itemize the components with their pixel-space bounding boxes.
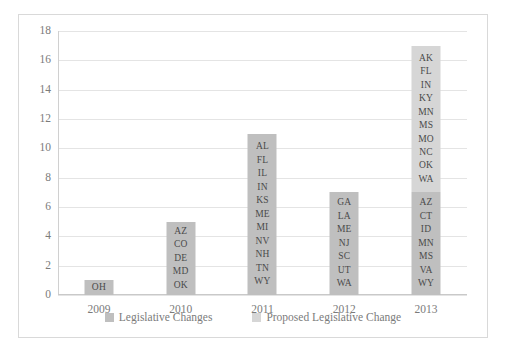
y-axis-tick-label: 18 xyxy=(40,25,52,37)
bar-state-label: NV xyxy=(255,235,269,248)
bar-segment[interactable]: AZCODEMDOK xyxy=(166,222,195,295)
bar-state-label: IL xyxy=(258,167,267,180)
legend-entry[interactable]: Legislative Changes xyxy=(105,312,213,324)
bar-slot: AKFLINKYMNMSMONCOKWAAZCTIDMNMSVAWY2013 xyxy=(385,31,467,295)
bar-state-label: WA xyxy=(418,173,433,186)
bar-state-label: DE xyxy=(174,252,187,265)
bar-segment[interactable]: OH xyxy=(84,280,113,295)
bar-state-label: NJ xyxy=(339,237,350,250)
bar-state-label: IN xyxy=(421,79,431,92)
bar-slot: OH2009 xyxy=(58,31,140,295)
bar-segment[interactable]: GALAMENJSCUTWA xyxy=(330,192,359,295)
bar-state-label: OK xyxy=(174,279,188,292)
y-axis-tick-label: 2 xyxy=(45,260,51,272)
bar-slot: GALAMENJSCUTWA2012 xyxy=(303,31,385,295)
chart-figure: 024681012141618 OH2009AZCODEMDOK2010ALFL… xyxy=(18,14,488,338)
bar-stack[interactable]: AZCODEMDOK xyxy=(166,222,195,295)
bar-state-label: OH xyxy=(92,281,106,294)
gridline xyxy=(58,295,467,296)
bar-state-label: AZ xyxy=(174,225,187,238)
bar-state-label: MO xyxy=(418,133,434,146)
bar-state-label: SC xyxy=(338,250,350,263)
bar-stack[interactable]: ALFLILINKSMEMINVNHTNWY xyxy=(248,134,277,295)
bar-state-label: AL xyxy=(256,140,269,153)
bar-state-label: LA xyxy=(338,210,351,223)
bar-slot: AZCODEMDOK2010 xyxy=(140,31,222,295)
bar-stack[interactable]: GALAMENJSCUTWA xyxy=(330,192,359,295)
bar-state-label: FL xyxy=(420,65,432,78)
bar-state-label: NC xyxy=(419,146,433,159)
bar-state-label: AZ xyxy=(420,196,433,209)
bar-state-label: CT xyxy=(420,210,433,223)
bar-segment[interactable]: AZCTIDMNMSVAWY xyxy=(412,192,441,295)
bar-stack[interactable]: OH xyxy=(84,280,113,295)
y-axis-tick-label: 0 xyxy=(45,289,51,301)
bar-state-label: KY xyxy=(419,92,433,105)
y-axis-tick-label: 10 xyxy=(40,143,52,155)
bar-state-label: UT xyxy=(338,264,351,277)
bar-state-label: NH xyxy=(255,248,269,261)
bar-state-label: GA xyxy=(337,196,351,209)
bar-state-label: AK xyxy=(419,52,433,65)
bar-state-label: KS xyxy=(256,194,269,207)
legend-label: Proposed Legislative Change xyxy=(266,312,401,324)
bar-state-label: MS xyxy=(419,119,433,132)
bar-state-label: TN xyxy=(256,262,269,275)
bar-state-label: MN xyxy=(418,237,434,250)
y-axis-tick-label: 12 xyxy=(40,113,52,125)
bar-state-label: WY xyxy=(418,277,434,290)
y-axis-tick-label: 14 xyxy=(40,84,52,96)
bar-state-label: FL xyxy=(257,154,269,167)
bar-state-label: WY xyxy=(254,275,270,288)
chart-legend: Legislative ChangesProposed Legislative … xyxy=(19,312,487,324)
bar-state-label: IN xyxy=(257,181,267,194)
legend-entry[interactable]: Proposed Legislative Change xyxy=(252,312,401,324)
bar-stack[interactable]: AKFLINKYMNMSMONCOKWAAZCTIDMNMSVAWY xyxy=(412,46,441,295)
bar-state-label: OK xyxy=(419,159,433,172)
bar-state-label: VA xyxy=(420,264,433,277)
bar-segment[interactable]: AKFLINKYMNMSMONCOKWA xyxy=(412,46,441,193)
legend-label: Legislative Changes xyxy=(119,312,213,324)
bar-state-label: MN xyxy=(418,106,434,119)
y-axis-tick-label: 8 xyxy=(45,172,51,184)
bar-state-label: MD xyxy=(173,265,189,278)
bar-state-label: ME xyxy=(255,208,270,221)
y-axis-tick-label: 6 xyxy=(45,201,51,213)
y-axis-tick-label: 16 xyxy=(40,55,52,67)
legend-swatch xyxy=(252,313,261,322)
bar-state-label: ME xyxy=(337,223,352,236)
bar-state-label: MI xyxy=(256,221,268,234)
bar-state-label: ID xyxy=(421,223,431,236)
bar-segment[interactable]: ALFLILINKSMEMINVNHTNWY xyxy=(248,134,277,295)
legend-swatch xyxy=(105,313,114,322)
bar-slot: ALFLILINKSMEMINVNHTNWY2011 xyxy=(222,31,304,295)
bar-state-label: CO xyxy=(174,238,188,251)
bar-state-label: WA xyxy=(337,277,352,290)
plot-area: 024681012141618 OH2009AZCODEMDOK2010ALFL… xyxy=(58,31,467,295)
bar-state-label: MS xyxy=(419,250,433,263)
y-axis-tick-label: 4 xyxy=(45,231,51,243)
